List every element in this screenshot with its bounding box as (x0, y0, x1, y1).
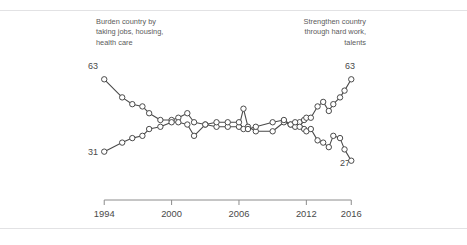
data-point-marker (292, 120, 297, 125)
data-point-marker (315, 138, 320, 143)
data-point-marker (241, 106, 246, 111)
data-point-marker (326, 108, 331, 113)
data-point-marker (140, 133, 145, 138)
x-tick-label: 1994 (84, 208, 124, 219)
x-axis (104, 200, 351, 205)
data-point-marker (342, 147, 347, 152)
data-point-marker (297, 124, 302, 129)
data-point-marker (337, 135, 342, 140)
data-point-marker (349, 158, 354, 163)
data-point-marker (158, 117, 163, 122)
data-point-marker (102, 149, 107, 154)
data-point-marker (308, 126, 313, 131)
data-point-marker (169, 120, 174, 125)
data-point-marker (342, 88, 347, 93)
data-point-marker (308, 115, 313, 120)
data-point-marker (245, 126, 250, 131)
data-point-marker (214, 120, 219, 125)
data-point-marker (320, 140, 325, 145)
data-point-marker (281, 117, 286, 122)
data-point-marker (146, 126, 151, 131)
data-point-marker (158, 124, 163, 129)
data-point-marker (176, 120, 181, 125)
data-point-marker (331, 101, 336, 106)
data-point-marker (253, 124, 258, 129)
data-point-marker (130, 101, 135, 106)
data-point-marker (320, 99, 325, 104)
data-point-marker (225, 120, 230, 125)
data-point-marker (203, 122, 208, 127)
data-point-marker (191, 133, 196, 138)
data-point-marker (270, 129, 275, 134)
x-tick-label: 2012 (286, 208, 326, 219)
data-point-marker (349, 77, 354, 82)
data-point-marker (337, 95, 342, 100)
data-point-marker (102, 77, 107, 82)
x-tick-label: 2016 (331, 208, 371, 219)
data-point-marker (315, 104, 320, 109)
data-point-marker (119, 140, 124, 145)
chart-figure: Burden country by taking jobs, housing, … (0, 0, 467, 245)
series-layer (102, 77, 354, 164)
data-point-marker (185, 122, 190, 127)
data-point-marker (119, 95, 124, 100)
data-point-marker (270, 120, 275, 125)
data-point-marker (191, 120, 196, 125)
x-tick-label: 2000 (152, 208, 192, 219)
data-point-marker (236, 120, 241, 125)
data-point-marker (185, 111, 190, 116)
data-point-marker (326, 144, 331, 149)
data-point-marker (146, 111, 151, 116)
data-point-marker (130, 135, 135, 140)
series-line (104, 79, 351, 151)
data-point-marker (331, 133, 336, 138)
x-tick-label: 2006 (219, 208, 259, 219)
data-point-marker (140, 104, 145, 109)
